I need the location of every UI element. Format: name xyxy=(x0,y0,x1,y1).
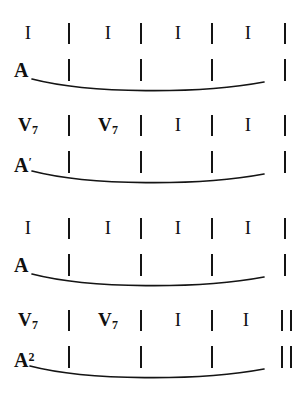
phrase-barline xyxy=(140,59,142,81)
phrase-final-barline xyxy=(284,59,286,81)
phrase-barline xyxy=(140,254,142,276)
chord-symbol-base: V xyxy=(18,114,32,135)
system-3: I I I I A xyxy=(0,213,308,303)
final-barline xyxy=(284,218,286,239)
barline xyxy=(68,218,70,239)
chord-symbol-subscript: 7 xyxy=(32,318,38,332)
chord-row-3: I I I I xyxy=(0,213,308,243)
phrase-final-double-barline xyxy=(281,346,292,368)
phrase-barline xyxy=(211,254,213,276)
phrase-label: A xyxy=(14,250,28,280)
phrase-row-1: A xyxy=(0,55,308,89)
chord-symbol: I xyxy=(8,213,48,243)
chord-symbol: V7 xyxy=(86,110,130,140)
phrase-final-barline xyxy=(284,151,286,173)
chord-row-4: V7 V7 I I xyxy=(0,305,308,335)
phrase-arc xyxy=(28,364,266,384)
chord-symbol: I xyxy=(88,213,128,243)
phrase-arc xyxy=(30,77,266,97)
phrase-barline xyxy=(68,151,70,173)
phrase-row-4: A2 xyxy=(0,342,308,376)
chord-symbol: V7 xyxy=(6,305,50,335)
final-double-barline xyxy=(281,310,292,331)
phrase-arc xyxy=(30,169,266,189)
barline xyxy=(140,310,142,331)
chord-symbol: I xyxy=(88,18,128,48)
phrase-label: A2 xyxy=(14,342,34,372)
barline xyxy=(211,23,213,44)
phrase-row-3: A xyxy=(0,250,308,284)
final-barline xyxy=(284,115,286,136)
barline xyxy=(211,218,213,239)
barline xyxy=(68,310,70,331)
chord-symbol: I xyxy=(158,110,198,140)
system-4: V7 V7 I I A2 xyxy=(0,305,308,397)
chord-symbol-subscript: 7 xyxy=(112,123,118,137)
phrase-barline xyxy=(68,59,70,81)
phrase-final-barline xyxy=(284,254,286,276)
chord-symbol: I xyxy=(228,110,268,140)
barline xyxy=(68,23,70,44)
chord-symbol-base: V xyxy=(98,114,112,135)
phrase-barline xyxy=(211,151,213,173)
phrase-label-base: A xyxy=(14,154,28,176)
phrase-label-base: A xyxy=(14,349,28,371)
barline xyxy=(140,115,142,136)
chord-symbol-base: V xyxy=(98,309,112,330)
phrase-label: A xyxy=(14,55,28,85)
chord-symbol-subscript: 7 xyxy=(32,123,38,137)
chord-symbol: I xyxy=(8,18,48,48)
chord-symbol: I xyxy=(158,213,198,243)
phrase-row-2: A′ xyxy=(0,147,308,181)
chord-symbol: V7 xyxy=(86,305,130,335)
phrase-barline xyxy=(68,346,70,368)
phrase-label-base: A xyxy=(14,59,28,81)
phrase-barline xyxy=(68,254,70,276)
barline xyxy=(68,115,70,136)
phrase-label-base: A xyxy=(14,254,28,276)
barline xyxy=(140,23,142,44)
chord-symbol: I xyxy=(228,18,268,48)
phrase-barline xyxy=(211,346,213,368)
barline xyxy=(211,115,213,136)
chord-row-1: I I I I xyxy=(0,18,308,48)
chord-symbol: I xyxy=(226,305,266,335)
barline xyxy=(140,218,142,239)
chord-symbol: I xyxy=(158,305,198,335)
chord-symbol: I xyxy=(228,213,268,243)
phrase-label-prime: ′ xyxy=(28,155,31,169)
phrase-barline xyxy=(140,151,142,173)
system-1: I I I I A xyxy=(0,18,308,108)
chord-symbol-base: V xyxy=(18,309,32,330)
phrase-label: A′ xyxy=(14,147,32,177)
phrase-barline xyxy=(140,346,142,368)
chord-symbol: V7 xyxy=(6,110,50,140)
system-2: V7 V7 I I A′ xyxy=(0,110,308,200)
final-barline xyxy=(284,23,286,44)
chord-symbol-subscript: 7 xyxy=(112,318,118,332)
phrase-label-superscript: 2 xyxy=(28,350,34,364)
phrase-arc xyxy=(30,272,266,292)
harmonic-phrase-diagram: I I I I A V7 xyxy=(0,0,308,401)
chord-symbol: I xyxy=(158,18,198,48)
phrase-barline xyxy=(211,59,213,81)
chord-row-2: V7 V7 I I xyxy=(0,110,308,140)
barline xyxy=(211,310,213,331)
